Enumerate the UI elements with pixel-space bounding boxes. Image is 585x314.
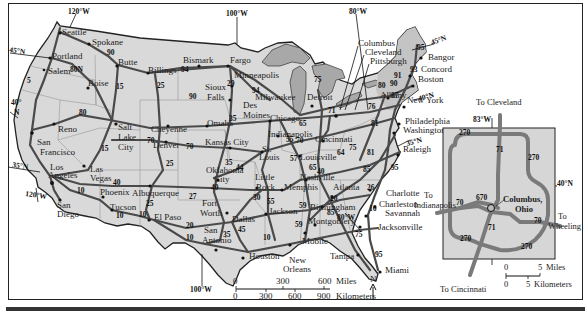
- city-label: Denver: [153, 140, 180, 150]
- city-label: Phoenix: [100, 187, 130, 197]
- city-label: Falls: [207, 92, 225, 102]
- route-number: 40: [113, 178, 121, 187]
- city-label: San: [37, 137, 51, 147]
- city-label: San: [204, 225, 218, 235]
- lon-120-top-label: 120°W: [68, 7, 90, 16]
- route-number: 90: [189, 92, 197, 101]
- to-wheeling-label-2: Wheeling: [548, 221, 582, 231]
- route-number: 95: [391, 163, 399, 172]
- columbus-city-marker: [488, 205, 495, 212]
- route-number: 26: [367, 183, 375, 192]
- route-number: 5: [27, 76, 31, 85]
- route-number: 25: [166, 159, 174, 168]
- city-label: Fargo: [230, 55, 251, 65]
- scale-miles-300: 300: [276, 276, 290, 286]
- inset-scale-km-0: 0: [504, 279, 508, 289]
- route-number: 75: [314, 75, 322, 84]
- route-number: 27: [189, 192, 197, 201]
- scale-miles-0: 0: [233, 276, 238, 286]
- city-label: Chicago: [270, 113, 300, 123]
- route-number: 70: [186, 142, 194, 151]
- city-label: Spokane: [92, 37, 123, 47]
- route-number: 15: [116, 82, 124, 91]
- route-number: 25: [146, 199, 154, 208]
- city-label: Albuquerque: [132, 188, 179, 198]
- scale-km-label: Kilometers: [336, 291, 376, 301]
- city-label: City: [118, 142, 134, 152]
- lon-120-bottom-label: 120°W: [25, 189, 48, 201]
- city-label: Jacksonville: [378, 222, 423, 232]
- route-number: 16: [369, 204, 377, 213]
- route-number: 65: [299, 119, 307, 128]
- city-label: Seattle: [62, 27, 87, 37]
- lat-40-west-n-label: N: [14, 108, 20, 117]
- city-label: Dallas: [232, 214, 255, 224]
- route-number: 90: [107, 48, 115, 57]
- city-label: Orleans: [283, 264, 311, 274]
- route-number: 71: [328, 106, 336, 115]
- city-label: Worth: [200, 208, 223, 218]
- lon-100-top-label: 100°W: [226, 9, 248, 18]
- city-label: Tampa: [330, 251, 354, 261]
- route-number: 35: [223, 230, 231, 239]
- city-label: Boston: [418, 74, 444, 84]
- lon-100-bottom-label: 100°W: [190, 285, 212, 294]
- route-number: 35: [225, 158, 233, 167]
- city-label: Raleigh: [403, 144, 431, 154]
- main-scale-bar: 0 300 600 Miles 0 300 600 900 Kilometers: [233, 276, 376, 301]
- route-number: 95: [375, 250, 383, 259]
- to-indianapolis-label-1: To: [424, 190, 433, 200]
- city-label: Billings: [148, 65, 177, 75]
- city-label: Vegas: [90, 173, 112, 183]
- city-label: Kansas City: [205, 137, 249, 147]
- scale-km-900: 900: [317, 291, 331, 301]
- route-number: 40: [317, 167, 325, 176]
- north-label: N: [370, 274, 377, 284]
- to-cincinnati-label: To Cincinnati: [440, 284, 487, 294]
- us-interstate-map: 120°W 100°W 80°W 45°N 40° N 35°N 120°W 1…: [0, 0, 585, 314]
- inset-route-number: 70: [534, 216, 542, 225]
- route-number: 70: [296, 136, 304, 145]
- route-number: 10: [77, 186, 85, 195]
- inset-scale-km-label: Kilometers: [534, 279, 572, 289]
- inset-route-number: 70: [456, 198, 464, 207]
- city-label: Charlotte: [386, 188, 420, 198]
- route-number: 64: [337, 148, 345, 157]
- route-number: 93: [410, 65, 418, 74]
- to-indianapolis-label-2: Indianapolis: [414, 200, 456, 210]
- route-number: 65: [309, 163, 317, 172]
- inset-scale-km-5: 5: [526, 279, 530, 289]
- city-label: Reno: [58, 124, 77, 134]
- route-number: 30: [253, 193, 261, 202]
- city-label: Montgomery: [308, 216, 355, 226]
- inset-route-number: 670: [476, 193, 488, 202]
- lat-45-west-label: 45°N: [9, 45, 27, 56]
- route-number: 70: [147, 136, 155, 145]
- inset-city-title: Columbus,: [503, 194, 542, 204]
- scale-miles-600: 600: [318, 276, 332, 286]
- to-wheeling-label-1: To: [558, 211, 567, 221]
- route-number: 10: [116, 211, 124, 220]
- route-number: 81: [371, 119, 379, 128]
- inset-scale-bar: 0 5 Miles 0 5 Kilometers: [504, 262, 572, 289]
- city-label: Houston: [249, 251, 280, 261]
- city-label: Miami: [385, 265, 409, 275]
- route-number: 75: [355, 230, 363, 239]
- city-label: Atlanta: [333, 182, 360, 192]
- city-label: Minneapolis: [234, 70, 279, 80]
- lat-40-west-label: 40°: [11, 98, 22, 107]
- city-label: New York: [407, 95, 444, 105]
- city-label: Moines: [243, 110, 270, 120]
- route-number: 10: [186, 233, 194, 242]
- inset-scale-miles-5: 5: [538, 262, 542, 272]
- scale-km-0: 0: [233, 291, 238, 301]
- route-number: 55: [286, 135, 294, 144]
- route-number: 10: [139, 210, 147, 219]
- city-label: Francisco: [40, 147, 75, 157]
- city-label: Diego: [57, 209, 79, 219]
- inset-scale-miles-0: 0: [504, 262, 508, 272]
- route-number: 94: [252, 86, 260, 95]
- route-number: 76: [368, 102, 376, 111]
- inset-route-number: 71: [496, 145, 504, 154]
- city-label: Pittsburgh: [370, 56, 407, 66]
